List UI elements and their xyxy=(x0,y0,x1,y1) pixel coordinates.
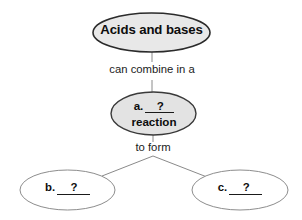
connector-branch-right xyxy=(153,156,207,177)
connector-branch-left xyxy=(102,156,153,176)
node-blank-b[interactable] xyxy=(20,170,115,210)
diagram-shapes-layer xyxy=(0,0,302,220)
node-reaction-blank-a[interactable] xyxy=(111,92,196,135)
node-acids-and-bases[interactable] xyxy=(93,13,210,52)
concept-map-diagram: Acids and bases a.? reaction b.? c.? can… xyxy=(0,0,302,220)
node-blank-c[interactable] xyxy=(192,170,288,210)
